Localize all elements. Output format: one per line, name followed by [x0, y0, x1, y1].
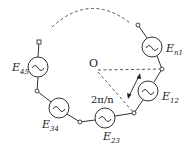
source-en1: En1 [142, 37, 183, 57]
source-e45: E45 [11, 57, 48, 77]
source-e23: E23 [95, 108, 120, 145]
source-e34: E34 [41, 98, 69, 133]
svg-text:E23: E23 [102, 130, 120, 145]
angle-label: 2π/n [91, 94, 114, 105]
center-label: O [89, 57, 98, 70]
svg-text:En1: En1 [165, 42, 183, 57]
node [136, 23, 140, 27]
source-e12: E12 [138, 81, 179, 105]
svg-text:E34: E34 [41, 118, 59, 133]
node [35, 89, 39, 93]
node [160, 67, 164, 71]
svg-text:E12: E12 [161, 90, 179, 105]
node [132, 111, 136, 115]
svg-text:E45: E45 [11, 61, 29, 76]
ring-circuit-diagram: En1 E12 E23 E34 E45 O 2π/n [0, 0, 189, 152]
node [78, 120, 82, 124]
dashed-arc [52, 8, 130, 27]
node [37, 40, 41, 44]
